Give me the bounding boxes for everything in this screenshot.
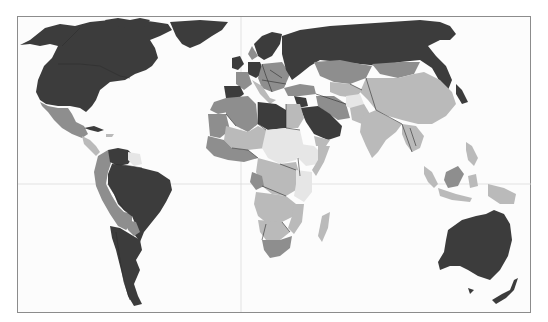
region-chad-sudan[interactable] [262, 128, 304, 164]
russia-asia [282, 20, 468, 158]
region-libya[interactable] [258, 102, 286, 130]
region-central-africa[interactable] [256, 158, 300, 196]
region-philippines[interactable] [466, 142, 478, 166]
region-angola-zambia[interactable] [254, 192, 296, 224]
oceania [438, 210, 518, 304]
region-central-america[interactable] [82, 136, 100, 156]
north-america [20, 18, 228, 156]
region-sulawesi[interactable] [468, 174, 478, 188]
region-egypt[interactable] [286, 104, 304, 128]
region-far-east-islands[interactable] [456, 84, 468, 104]
region-turkey-caucasus[interactable] [284, 84, 316, 96]
region-caribbean-islands[interactable] [106, 134, 114, 137]
region-uk[interactable] [232, 56, 244, 70]
region-guianas[interactable] [128, 152, 142, 166]
world-choropleth-map [0, 0, 548, 322]
region-caribbean-cuba[interactable] [84, 126, 104, 132]
region-tasmania[interactable] [468, 288, 474, 294]
region-algeria[interactable] [226, 96, 258, 132]
region-malaysia-indonesia-west[interactable] [424, 166, 438, 188]
region-new-guinea[interactable] [488, 184, 516, 204]
region-canada-usa[interactable] [20, 20, 172, 112]
south-america [94, 148, 172, 306]
europe [224, 32, 290, 104]
region-australia[interactable] [438, 210, 512, 280]
region-greenland[interactable] [170, 20, 228, 48]
region-borneo[interactable] [444, 166, 464, 188]
region-java-sumatra[interactable] [438, 188, 472, 202]
region-scandinavia[interactable] [254, 32, 282, 60]
region-kenya-tanzania[interactable] [294, 170, 312, 202]
region-new-zealand[interactable] [492, 278, 518, 304]
maritime-southeast-asia [424, 142, 516, 204]
region-madagascar[interactable] [318, 212, 330, 242]
region-southeast-asia[interactable] [402, 124, 424, 152]
